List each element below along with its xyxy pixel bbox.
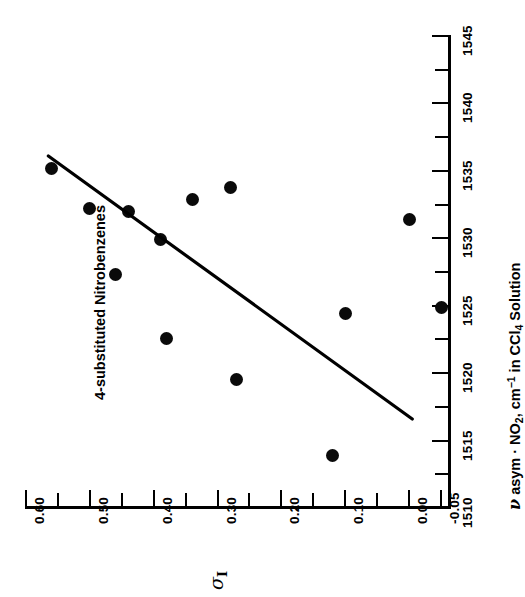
sigma-symbol: σ	[205, 577, 227, 590]
y-axis-title: σI	[205, 571, 230, 590]
sigma-subscript: I	[215, 571, 230, 577]
nu-symbol: ν	[505, 499, 524, 510]
x-axis-title: ν asym · NO2, cm−1 in CCl4 Solution	[505, 263, 525, 510]
plot-annotation: 4-substituted Nitrobenzenes	[92, 205, 108, 400]
x-axis-title-text: asym · NO2, cm−1 in CCl4 Solution	[507, 263, 523, 499]
